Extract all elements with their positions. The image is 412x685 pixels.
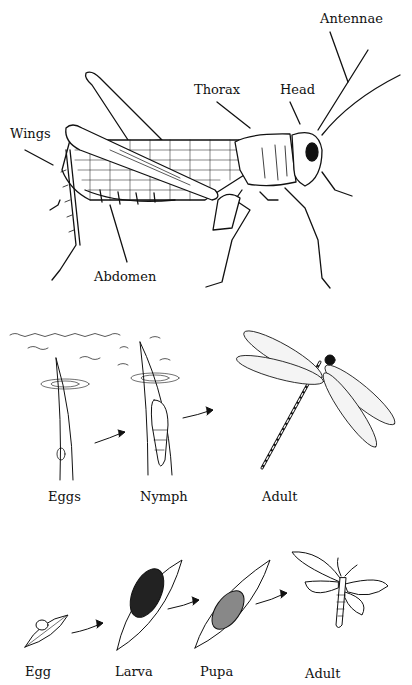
- stage-label-eggs: Eggs: [48, 490, 81, 503]
- label-head: Head: [280, 83, 315, 96]
- stage-label-egg: Egg: [25, 665, 51, 678]
- label-wings: Wings: [10, 127, 51, 140]
- stage-label-nymph: Nymph: [140, 490, 188, 503]
- stage-label-pupa: Pupa: [200, 665, 233, 678]
- stage-label-larva: Larva: [115, 665, 153, 678]
- stage-label-adult-moth: Adult: [305, 667, 340, 680]
- stage-label-adult-dragonfly: Adult: [262, 490, 297, 503]
- dragonfly-life-cycle-illustration: [0, 300, 412, 520]
- label-abdomen: Abdomen: [94, 270, 156, 283]
- grasshopper-illustration: [0, 0, 412, 300]
- moth-life-cycle-illustration: [0, 520, 412, 685]
- label-antennae: Antennae: [320, 12, 383, 25]
- label-thorax: Thorax: [194, 83, 240, 96]
